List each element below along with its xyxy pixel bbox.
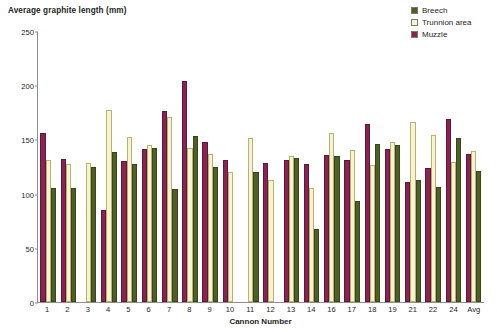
x-axis-tick-label: 21 — [403, 305, 423, 314]
bar-group — [301, 32, 321, 302]
x-axis-tick-label: 10 — [220, 305, 240, 314]
bar-group — [58, 32, 78, 302]
bar-breech — [172, 189, 177, 302]
x-axis-tick-label: 22 — [423, 305, 443, 314]
bar-breech — [253, 172, 258, 302]
y-axis-tick-label: 250 — [21, 28, 34, 37]
bar-groups — [38, 32, 484, 302]
bar-breech — [132, 164, 137, 302]
x-axis-tick-label: 19 — [382, 305, 402, 314]
bar-group — [200, 32, 220, 302]
bar-breech — [395, 145, 400, 302]
bar-group — [241, 32, 261, 302]
bar-breech — [334, 156, 339, 302]
y-axis-tick-label: 50 — [26, 244, 34, 253]
x-axis-tick-label: 9 — [200, 305, 220, 314]
x-axis-tick-label: 12 — [260, 305, 280, 314]
legend-swatch-icon — [411, 7, 418, 14]
legend-label: Breech — [422, 6, 447, 15]
bar-group — [261, 32, 281, 302]
y-axis-tick-label: 200 — [21, 82, 34, 91]
y-axis-tick-label: 150 — [21, 136, 34, 145]
bar-group — [362, 32, 382, 302]
bar-breech — [152, 148, 157, 302]
bar-group — [119, 32, 139, 302]
legend-label: Trunnion area — [422, 18, 472, 27]
bar-trunnion — [228, 172, 233, 302]
bar-group — [383, 32, 403, 302]
plot-area: 050100150200250 — [37, 32, 484, 303]
bar-group — [160, 32, 180, 302]
bar-group — [322, 32, 342, 302]
bar-group — [220, 32, 240, 302]
x-axis-tick-label: 14 — [301, 305, 321, 314]
x-axis-tick-label: 17 — [342, 305, 362, 314]
x-axis-tick-label: 11 — [240, 305, 260, 314]
bar-breech — [91, 167, 96, 303]
x-axis-tick-label: 7 — [159, 305, 179, 314]
x-axis-tick-label: 24 — [443, 305, 463, 314]
x-axis-tick-label: 13 — [281, 305, 301, 314]
bar-group — [403, 32, 423, 302]
bar-group — [423, 32, 443, 302]
x-axis-tick-label: 6 — [139, 305, 159, 314]
x-axis-tick-label: 8 — [179, 305, 199, 314]
x-axis-tick-label: Avg — [464, 305, 484, 314]
bar-group — [38, 32, 58, 302]
y-axis-tick-mark — [35, 303, 38, 304]
bar-group — [342, 32, 362, 302]
x-axis-tick-label: 3 — [78, 305, 98, 314]
bar-breech — [476, 171, 481, 302]
legend-item-breech[interactable]: Breech — [411, 6, 472, 15]
bar-group — [79, 32, 99, 302]
bar-breech — [456, 138, 461, 302]
bar-breech — [436, 187, 441, 302]
bar-breech — [112, 152, 117, 302]
bar-breech — [416, 180, 421, 302]
bar-trunnion — [268, 180, 273, 302]
legend-item-trunnion-area[interactable]: Trunnion area — [411, 18, 472, 27]
x-axis-tick-label: 5 — [118, 305, 138, 314]
x-axis-tick-label: 4 — [98, 305, 118, 314]
x-axis-tick-label: 16 — [321, 305, 341, 314]
bar-group — [443, 32, 463, 302]
legend-swatch-icon — [411, 19, 418, 26]
y-axis-tick-label: 100 — [21, 190, 34, 199]
bar-breech — [314, 229, 319, 302]
x-axis-tick-label: 1 — [37, 305, 57, 314]
bar-breech — [375, 144, 380, 302]
bar-group — [180, 32, 200, 302]
bar-breech — [71, 188, 76, 302]
graphite-length-bar-chart: Average graphite length (mm) BreechTrunn… — [0, 0, 497, 332]
chart-title: Average graphite length (mm) — [8, 6, 127, 15]
y-axis-tick-label: 0 — [30, 299, 34, 308]
bar-group — [464, 32, 484, 302]
x-axis-tick-label: 18 — [362, 305, 382, 314]
x-axis-tick-label: 2 — [57, 305, 77, 314]
bar-group — [99, 32, 119, 302]
bar-group — [139, 32, 159, 302]
x-axis-title: Cannon Number — [37, 317, 484, 326]
bar-group — [281, 32, 301, 302]
bar-breech — [294, 158, 299, 302]
x-axis-tick-labels: 123456789101112131416171819212224Avg — [37, 305, 484, 314]
bar-breech — [355, 201, 360, 302]
bar-breech — [213, 167, 218, 303]
bar-breech — [51, 188, 56, 302]
bar-breech — [193, 136, 198, 302]
